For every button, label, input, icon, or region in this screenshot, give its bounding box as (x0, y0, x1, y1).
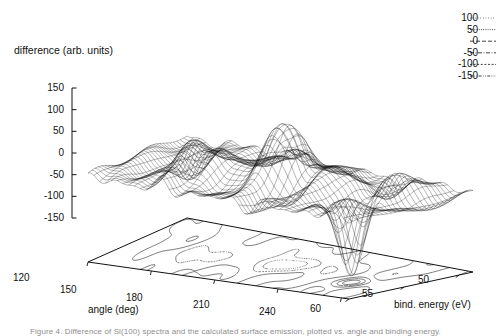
x-tick-label: 240 (259, 306, 276, 317)
legend-value: 0 (448, 35, 478, 46)
legend-value: -100 (448, 58, 478, 69)
x-tick-label: 150 (60, 284, 77, 295)
legend-value: 50 (448, 24, 478, 35)
surface-mesh (88, 124, 473, 276)
z-tick-label: -100 (22, 190, 64, 201)
y-tick-label: 60 (310, 303, 321, 314)
x-axis-title: angle (deg) (88, 304, 139, 315)
axis-lines (72, 88, 459, 302)
figure-caption: Figure 4. Difference of Si(100) spectra … (30, 327, 441, 336)
x-tick-label: 120 (13, 272, 30, 283)
legend-value: -150 (448, 70, 478, 81)
z-axis-title: difference (arb. units) (14, 44, 113, 56)
z-tick-label: 150 (22, 82, 64, 93)
legend-value: 100 (448, 12, 478, 23)
y-tick-label: 50 (418, 274, 429, 285)
y-tick-label: 55 (362, 288, 373, 299)
z-tick-label: 100 (22, 104, 64, 115)
z-tick-label: 50 (22, 125, 64, 136)
contour-base-plate (88, 218, 473, 299)
y-axis-title: bind. energy (eV) (394, 299, 471, 310)
x-tick-label: 180 (126, 292, 143, 303)
z-tick-label: -150 (22, 212, 64, 223)
legend-value: -50 (448, 47, 478, 58)
z-tick-label: 0 (22, 147, 64, 158)
x-tick-label: 210 (193, 299, 210, 310)
z-tick-label: -50 (22, 169, 64, 180)
